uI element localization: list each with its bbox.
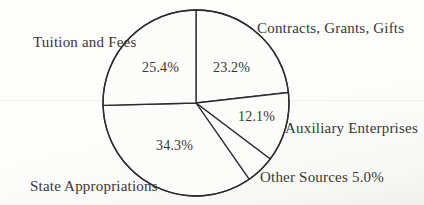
slice-label-auxiliary-enterprises: Auxiliary Enterprises xyxy=(285,121,418,136)
pie-slice-5 xyxy=(103,10,196,105)
slice-label-other-sources: Other Sources 5.0% xyxy=(260,170,384,185)
percent-label-contracts: 23.2% xyxy=(213,61,250,75)
slice-label-contracts-grants-gifts: Contracts, Grants, Gifts xyxy=(257,21,404,36)
percent-label-state: 34.3% xyxy=(156,139,193,153)
slice-label-state-appropriations: State Appropriations xyxy=(30,179,158,194)
percent-label-auxiliary: 12.1% xyxy=(238,110,275,124)
slice-label-tuition-and-fees: Tuition and Fees xyxy=(33,35,137,50)
percent-label-tuition: 25.4% xyxy=(142,61,179,75)
pie-chart: Contracts, Grants, Gifts Tuition and Fee… xyxy=(0,0,424,205)
